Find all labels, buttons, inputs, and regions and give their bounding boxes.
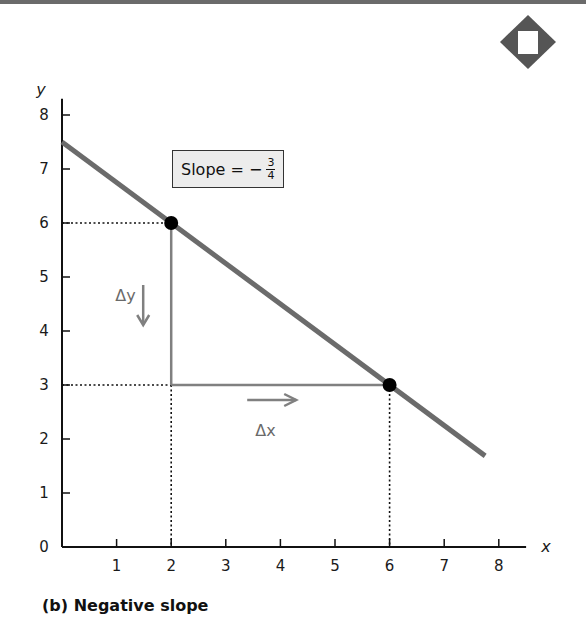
delta-x-label: Δx — [255, 421, 275, 440]
x-tick-label: 8 — [494, 557, 504, 575]
chart-caption: (b) Negative slope — [42, 596, 208, 615]
slope-denominator: 4 — [267, 170, 274, 182]
chart-canvas: 12345678123456780xyΔyΔx — [0, 0, 586, 644]
x-tick-label: 4 — [276, 557, 286, 575]
x-tick-label: 5 — [330, 557, 340, 575]
slope-annotation: Slope = − 3 4 — [172, 150, 284, 188]
x-tick-label: 2 — [166, 557, 176, 575]
slope-numerator: 3 — [266, 157, 275, 170]
delta-y-label: Δy — [115, 286, 135, 305]
x-tick-label: 1 — [112, 557, 122, 575]
data-point — [383, 378, 397, 392]
y-tick-label: 6 — [39, 214, 49, 232]
origin-label: 0 — [39, 538, 49, 556]
y-tick-label: 2 — [39, 430, 49, 448]
diamond-badge-icon — [500, 15, 556, 69]
y-tick-label: 3 — [39, 376, 49, 394]
data-point — [164, 216, 178, 230]
x-tick-label: 7 — [439, 557, 449, 575]
y-axis-label: y — [35, 80, 46, 99]
x-tick-label: 3 — [221, 557, 231, 575]
y-tick-label: 5 — [39, 268, 49, 286]
slope-fraction: 3 4 — [266, 157, 275, 182]
y-tick-label: 7 — [39, 160, 49, 178]
y-tick-label: 1 — [39, 484, 49, 502]
y-tick-label: 4 — [39, 322, 49, 340]
x-tick-label: 6 — [385, 557, 395, 575]
y-tick-label: 8 — [39, 106, 49, 124]
x-axis-label: x — [540, 537, 551, 556]
slope-text: Slope = − — [181, 160, 262, 179]
